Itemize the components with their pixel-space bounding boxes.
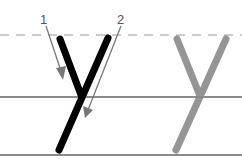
handwriting-guide: 1 2	[0, 0, 242, 163]
example-letter-y	[59, 38, 108, 150]
stroke-1-label: 1	[40, 12, 47, 27]
stroke-2-arrow	[83, 26, 121, 118]
stroke-2-label: 2	[117, 12, 124, 27]
trace-letter-y	[176, 39, 226, 150]
